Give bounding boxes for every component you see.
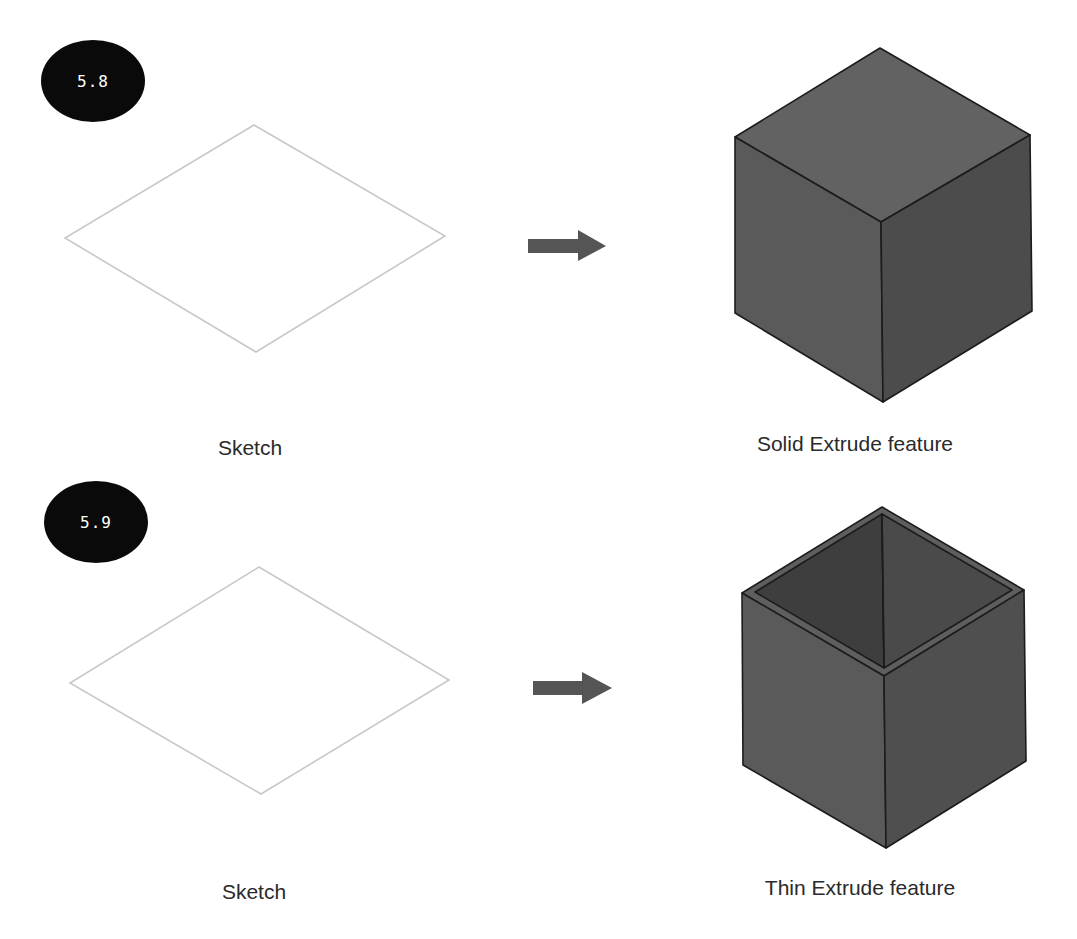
figure-5-8 — [65, 48, 1032, 402]
result-caption: Solid Extrude feature — [757, 432, 953, 456]
sketch-caption: Sketch — [222, 880, 286, 904]
figure-number-badge: 5.9 — [44, 481, 148, 563]
arrow-right-icon — [528, 230, 606, 261]
diagram-canvas — [0, 0, 1077, 939]
sketch-rhombus — [65, 125, 445, 352]
arrow-right-icon — [533, 672, 612, 704]
figure-number-badge: 5.8 — [41, 40, 145, 122]
sketch-rhombus — [70, 567, 449, 794]
sketch-caption: Sketch — [218, 436, 282, 460]
result-caption: Thin Extrude feature — [765, 876, 955, 900]
thin-extrude-cube — [742, 507, 1026, 848]
figure-5-9 — [70, 507, 1026, 848]
solid-extrude-cube — [735, 48, 1032, 402]
